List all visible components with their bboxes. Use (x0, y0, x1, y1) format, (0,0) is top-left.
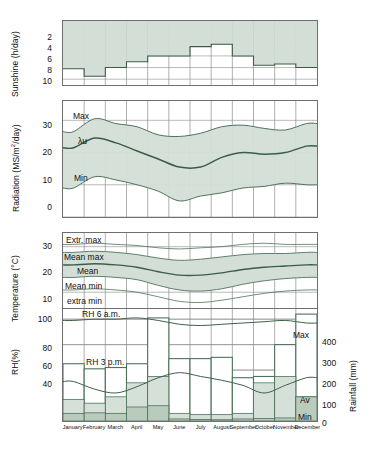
humidity-tick-60: 60 (26, 362, 52, 371)
rainfall-tick-0: 0 (322, 419, 348, 428)
radiation-label-max: Max (73, 112, 89, 121)
month-label: March (108, 424, 124, 430)
temperature-label-mean-max: Mean max (64, 253, 104, 262)
rainfall-tick-400: 400 (322, 338, 348, 347)
radiation-tick-20: 20 (26, 148, 52, 157)
humidity-tick-80: 80 (26, 344, 52, 353)
month-label: October (255, 424, 275, 430)
rainfall-label-min: Min (298, 413, 312, 422)
temperature-label-extra-min: extra min (67, 297, 102, 306)
rainfall-label-max: Max (293, 331, 309, 340)
humidity-label-3pm: RH 3 p.m. (86, 358, 124, 367)
rainfall-tick-200: 200 (322, 380, 348, 389)
temperature-tick-30: 30 (26, 242, 52, 251)
sunshine-tick-6: 6 (30, 55, 52, 64)
sunshine-plot (63, 21, 317, 85)
sunshine-tick-8: 8 (30, 66, 52, 75)
rainfall-tick-300: 300 (322, 359, 348, 368)
month-label: February (83, 424, 105, 430)
month-label: August (213, 424, 230, 430)
rainfall-tick-100: 100 (322, 401, 348, 410)
temperature-label-mean: Mean (77, 267, 98, 276)
sunshine-tick-10: 10 (26, 77, 52, 86)
humidity-label-6am: RH 6 a.m. (82, 310, 120, 319)
month-axis: JanuaryFebruaryMarchAprilMayJuneJulyAugu… (62, 424, 318, 438)
sunshine-tick-4: 4 (30, 44, 52, 53)
sunshine-axis-title: Sunshine (h/day) (10, 31, 20, 97)
radiation-label-min: Min (74, 174, 88, 183)
radiation-tick-0: 0 (26, 203, 52, 212)
month-label: December (294, 424, 320, 430)
temperature-tick-20: 20 (26, 268, 52, 277)
month-label: May (153, 424, 164, 430)
radiation-axis-title-pre: Radiation (MS/m (11, 147, 21, 212)
month-label: April (131, 424, 142, 430)
radiation-label-mean: λu (78, 137, 87, 146)
temperature-label-mean-min: Mean min (65, 282, 102, 291)
humidity-axis-title: RH(%) (10, 349, 20, 375)
radiation-tick-30: 30 (26, 121, 52, 130)
radiation-tick-10: 10 (26, 176, 52, 185)
temperature-label-extr-max: Extr. max (66, 236, 101, 245)
radiation-axis-title-post: /day) (11, 124, 21, 143)
radiation-axis-title: Radiation (MS/m2/day) (10, 124, 21, 212)
radiation-axis-title-sup: 2 (10, 144, 16, 147)
rainfall-label-av: Av (300, 396, 310, 405)
rainfall-axis-title: Rainfall (mm) (348, 360, 358, 412)
sunshine-panel (62, 20, 318, 86)
month-label: September (230, 424, 257, 430)
humidity-tick-100: 100 (22, 315, 52, 324)
temperature-tick-10: 10 (26, 295, 52, 304)
radiation-panel (62, 100, 318, 218)
month-label: July (196, 424, 206, 430)
temperature-axis-title: Temperature (°C) (10, 255, 20, 322)
month-label: June (173, 424, 185, 430)
radiation-plot (63, 101, 317, 217)
humidity-tick-40: 40 (26, 380, 52, 389)
month-label: January (63, 424, 83, 430)
climate-chart-figure: Sunshine (h/day) 2 4 6 8 10 Radiation (M… (0, 0, 370, 461)
sunshine-tick-2: 2 (30, 33, 52, 42)
